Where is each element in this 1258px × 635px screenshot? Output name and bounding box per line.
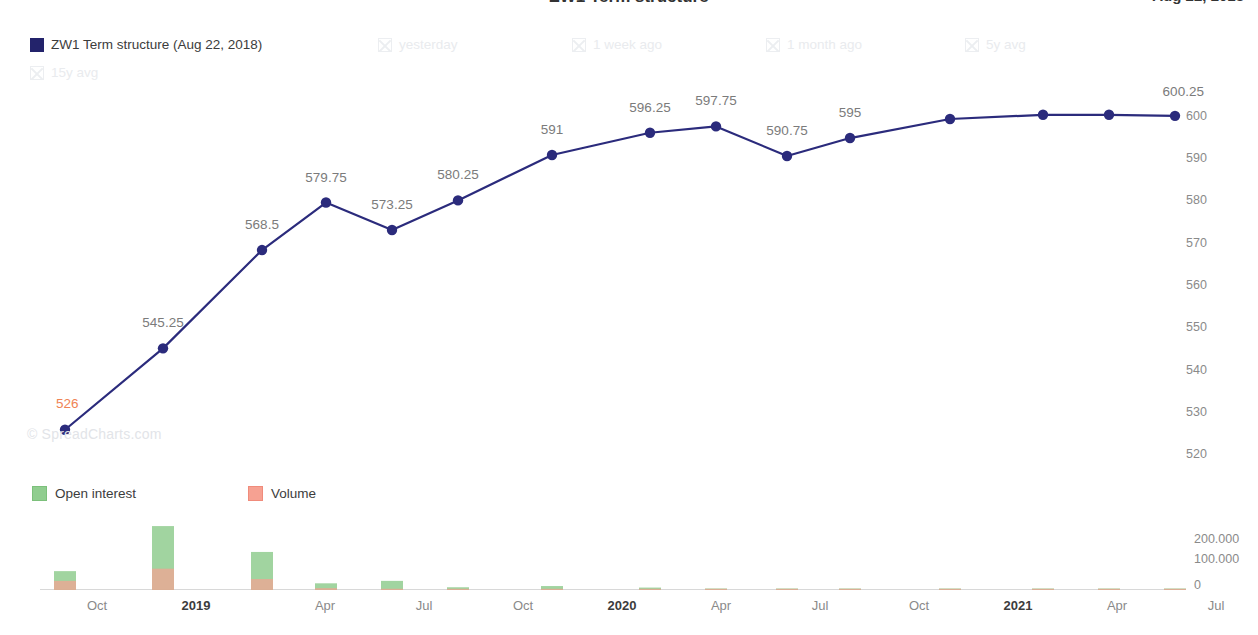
legend-item-label: 5y avg bbox=[986, 38, 1026, 52]
volume-bar[interactable] bbox=[939, 589, 961, 590]
volume-plot-area bbox=[0, 520, 1258, 590]
data-point-label: 580.25 bbox=[437, 167, 478, 182]
x-axis-tick-label: Oct bbox=[513, 598, 533, 613]
data-point-label: 545.25 bbox=[142, 315, 183, 330]
volume-legend: Open interestVolume bbox=[32, 486, 316, 501]
x-axis-tick-label: Jul bbox=[1208, 598, 1225, 613]
x-axis-tick-label: Apr bbox=[315, 598, 335, 613]
data-point-label: 568.5 bbox=[245, 217, 279, 232]
data-point-label: 600.25 bbox=[1163, 84, 1204, 99]
volume-bar[interactable] bbox=[1098, 589, 1120, 590]
x-axis-tick-label: 2019 bbox=[182, 598, 211, 613]
y-axis-tick-label: 530 bbox=[1186, 405, 1207, 419]
volume-bar[interactable] bbox=[776, 589, 798, 590]
legend-item-label: 15y avg bbox=[51, 66, 98, 80]
x-axis-tick-label: 2021 bbox=[1004, 598, 1033, 613]
legend-item-open-interest[interactable]: Open interest bbox=[32, 486, 136, 501]
term-structure-chart: ZW1 Term structure Aug 22, 2018 ZW1 Term… bbox=[0, 0, 1258, 635]
price-plot-area bbox=[0, 100, 1258, 472]
series-legend-row-1: ZW1 Term structure (Aug 22, 2018)yesterd… bbox=[30, 38, 1230, 66]
title-date-label: Aug 22, 2018 bbox=[1152, 0, 1244, 4]
volume-axis-tick-label: 0 bbox=[1194, 578, 1201, 592]
legend-item-label: Open interest bbox=[55, 486, 136, 501]
x-axis-tick-label: Apr bbox=[711, 598, 731, 613]
volume-axis-tick-label: 100.000 bbox=[1194, 552, 1239, 566]
y-axis-tick-label: 520 bbox=[1186, 447, 1207, 461]
y-axis-tick-label: 550 bbox=[1186, 320, 1207, 334]
data-point-marker[interactable] bbox=[645, 128, 655, 138]
data-point-marker[interactable] bbox=[1104, 110, 1114, 120]
open-interest-bar[interactable] bbox=[381, 581, 403, 590]
series-legend: ZW1 Term structure (Aug 22, 2018)yesterd… bbox=[30, 38, 1230, 94]
legend-x-icon bbox=[965, 38, 979, 52]
volume-bar[interactable] bbox=[315, 588, 337, 590]
volume-bar[interactable] bbox=[541, 589, 563, 590]
legend-x-icon bbox=[572, 38, 586, 52]
legend-item-5y-avg[interactable]: 5y avg bbox=[965, 38, 1026, 52]
data-point-label: 596.25 bbox=[629, 100, 670, 115]
x-axis-tick-label: 2020 bbox=[608, 598, 637, 613]
chart-title-strip: ZW1 Term structure Aug 22, 2018 bbox=[0, 0, 1258, 18]
volume-bar[interactable] bbox=[1164, 589, 1186, 590]
data-point-label: 573.25 bbox=[371, 197, 412, 212]
legend-x-icon bbox=[30, 66, 44, 80]
legend-item-1-month-ago[interactable]: 1 month ago bbox=[766, 38, 862, 52]
y-axis-tick-label: 600 bbox=[1186, 109, 1207, 123]
volume-swatch-icon bbox=[248, 486, 263, 501]
data-point-label: 597.75 bbox=[695, 93, 736, 108]
y-axis-tick-label: 540 bbox=[1186, 363, 1207, 377]
data-point-marker[interactable] bbox=[711, 121, 721, 131]
legend-item-yesterday[interactable]: yesterday bbox=[378, 38, 458, 52]
volume-bar[interactable] bbox=[839, 589, 861, 590]
data-point-marker[interactable] bbox=[547, 150, 557, 160]
data-point-marker[interactable] bbox=[945, 114, 955, 124]
data-point-label: 595 bbox=[839, 105, 862, 120]
legend-x-icon bbox=[378, 38, 392, 52]
volume-bar[interactable] bbox=[381, 589, 403, 590]
data-point-marker[interactable] bbox=[321, 197, 331, 207]
y-axis-tick-label: 570 bbox=[1186, 236, 1207, 250]
y-axis-tick-label: 590 bbox=[1186, 151, 1207, 165]
legend-item-label: 1 month ago bbox=[787, 38, 862, 52]
data-point-marker[interactable] bbox=[387, 225, 397, 235]
volume-bar[interactable] bbox=[639, 589, 661, 590]
volume-bar[interactable] bbox=[54, 581, 76, 590]
x-axis-tick-label: Apr bbox=[1107, 598, 1127, 613]
legend-item-zw1-term-structure-aug-22-2018[interactable]: ZW1 Term structure (Aug 22, 2018) bbox=[30, 38, 262, 52]
volume-bar[interactable] bbox=[447, 589, 469, 590]
series-legend-row-2: 15y avg bbox=[30, 66, 1230, 94]
volume-bar[interactable] bbox=[152, 569, 174, 590]
volume-y-axis: 200.000100.0000 bbox=[1186, 520, 1258, 590]
volume-axis-tick-label: 200.000 bbox=[1194, 532, 1239, 546]
watermark: © SpreadCharts.com bbox=[27, 426, 162, 442]
data-point-label: 526 bbox=[56, 396, 79, 411]
volume-bar[interactable] bbox=[705, 589, 727, 590]
legend-item-15y-avg[interactable]: 15y avg bbox=[30, 66, 98, 80]
volume-bar[interactable] bbox=[1032, 589, 1054, 590]
data-point-label: 590.75 bbox=[766, 123, 807, 138]
data-point-marker[interactable] bbox=[1038, 110, 1048, 120]
open-interest-swatch-icon bbox=[32, 486, 47, 501]
legend-item-label: 1 week ago bbox=[593, 38, 662, 52]
x-axis-tick-label: Oct bbox=[909, 598, 929, 613]
data-point-label: 591 bbox=[541, 122, 564, 137]
data-point-marker[interactable] bbox=[782, 151, 792, 161]
x-axis-tick-label: Jul bbox=[812, 598, 829, 613]
x-axis-tick-label: Oct bbox=[87, 598, 107, 613]
legend-item-label: yesterday bbox=[399, 38, 458, 52]
data-point-marker[interactable] bbox=[453, 195, 463, 205]
volume-bar[interactable] bbox=[251, 579, 273, 590]
legend-item-label: ZW1 Term structure (Aug 22, 2018) bbox=[51, 38, 262, 52]
data-point-marker[interactable] bbox=[257, 245, 267, 255]
legend-item-volume[interactable]: Volume bbox=[248, 486, 316, 501]
price-line-svg bbox=[0, 100, 1258, 472]
x-axis-tick-label: Jul bbox=[416, 598, 433, 613]
data-point-marker[interactable] bbox=[1170, 111, 1180, 121]
price-line bbox=[65, 115, 1175, 430]
data-point-marker[interactable] bbox=[158, 343, 168, 353]
legend-item-label: Volume bbox=[271, 486, 316, 501]
price-y-axis: 600590580570560550540530520 bbox=[1186, 100, 1256, 472]
legend-square-icon bbox=[30, 38, 44, 52]
legend-item-1-week-ago[interactable]: 1 week ago bbox=[572, 38, 662, 52]
data-point-marker[interactable] bbox=[845, 133, 855, 143]
